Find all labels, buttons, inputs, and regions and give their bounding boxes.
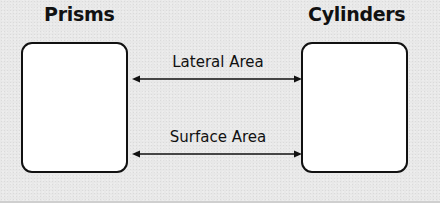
lateral-area-label: Lateral Area xyxy=(133,53,303,71)
prisms-box xyxy=(21,42,128,173)
cylinders-box xyxy=(301,42,408,173)
diagram-canvas: Prisms Cylinders Lateral Area Surface Ar… xyxy=(0,0,440,203)
surface-area-double-arrow-icon xyxy=(131,148,303,160)
cylinders-title: Cylinders xyxy=(308,3,405,25)
surface-area-label: Surface Area xyxy=(133,128,303,146)
lateral-area-double-arrow-icon xyxy=(131,73,303,85)
prisms-title: Prisms xyxy=(44,3,114,25)
